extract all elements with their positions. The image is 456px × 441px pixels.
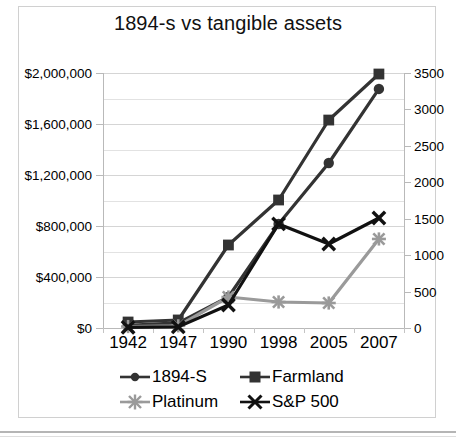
y-axis-left-tick-label: $800,000 [36, 219, 92, 234]
x-marker-icon [238, 393, 272, 411]
gridline [103, 252, 404, 253]
y-axis-left-tick [96, 328, 103, 329]
square-marker-icon [238, 368, 272, 386]
x-axis-tick [254, 328, 255, 333]
y-axis-left-tick-label: $1,600,000 [24, 117, 92, 132]
y-axis-left-tick [96, 277, 103, 278]
y-axis-right-tick [404, 328, 411, 329]
y-axis-left-tick [96, 73, 103, 74]
x-axis-tick-label: 1947 [159, 333, 197, 353]
legend-row: 1894-S Farmland [118, 364, 348, 389]
x-axis-tick [103, 328, 104, 333]
gridline [103, 303, 404, 304]
x-axis-tick-label: 2005 [310, 333, 348, 353]
x-axis-tick [203, 328, 204, 333]
legend-item-farmland[interactable]: Farmland [238, 367, 344, 387]
y-axis-right-tick-label: 2000 [414, 175, 444, 190]
legend-item-sp500[interactable]: S&P 500 [238, 392, 339, 412]
legend-label: S&P 500 [272, 392, 339, 412]
legend-label: Farmland [272, 367, 344, 387]
y-axis-right-tick [404, 73, 411, 74]
x-axis-tick [304, 328, 305, 333]
y-axis-right-tick [404, 219, 411, 220]
gridlines [103, 73, 404, 328]
gridline [103, 201, 404, 202]
circle-marker-icon [118, 368, 152, 386]
x-axis-tick [404, 328, 405, 333]
y-axis-right-tick [404, 292, 411, 293]
y-axis-right-tick [404, 182, 411, 183]
legend-row: Platinum S&P 500 [118, 389, 348, 414]
y-axis-right-tick-label: 0 [414, 321, 422, 336]
x-axis-tick [354, 328, 355, 333]
y-axis-left-tick-label: $1,200,000 [24, 168, 92, 183]
page-divider [0, 431, 456, 433]
y-axis-right-tick [404, 109, 411, 110]
legend-item-1894-s[interactable]: 1894-S [118, 367, 238, 387]
y-axis-right-tick-label: 1000 [414, 248, 444, 263]
x-axis-tick-label: 1998 [260, 333, 298, 353]
y-axis-left-tick-label: $2,000,000 [24, 66, 92, 81]
chart-legend: 1894-S Farmland Platinum [118, 364, 348, 414]
page-divider-2 [0, 436, 456, 437]
x-axis-tick-label: 1990 [209, 333, 247, 353]
x-axis-tick-label: 1942 [109, 333, 147, 353]
y-axis-right-tick-label: 3500 [414, 66, 444, 81]
y-axis-left-tick [96, 226, 103, 227]
gridline [103, 277, 404, 278]
legend-label: Platinum [152, 392, 218, 412]
y-axis-right-tick-label: 500 [414, 284, 437, 299]
star-marker-icon [118, 393, 152, 411]
y-axis-left-tick-label: $400,000 [36, 270, 92, 285]
y-axis-right-tick-label: 1500 [414, 211, 444, 226]
y-axis-left-line [103, 73, 104, 329]
y-axis-right-tick-label: 3000 [414, 102, 444, 117]
x-axis-tick-label: 2007 [360, 333, 398, 353]
plot-area [103, 73, 404, 328]
gridline [103, 175, 404, 176]
y-axis-right-tick [404, 255, 411, 256]
y-axis-right-tick [404, 146, 411, 147]
y-axis-left-tick [96, 124, 103, 125]
legend-label: 1894-S [152, 367, 207, 387]
y-axis-left-tick [96, 175, 103, 176]
gridline [103, 226, 404, 227]
gridline [103, 150, 404, 151]
gridline [103, 124, 404, 125]
y-axis-right-tick-label: 2500 [414, 138, 444, 153]
chart-title: 1894-s vs tangible assets [0, 12, 456, 35]
gridline [103, 99, 404, 100]
x-axis-tick [153, 328, 154, 333]
legend-item-platinum[interactable]: Platinum [118, 392, 238, 412]
gridline [103, 73, 404, 74]
y-axis-left-tick-label: $0 [77, 321, 92, 336]
